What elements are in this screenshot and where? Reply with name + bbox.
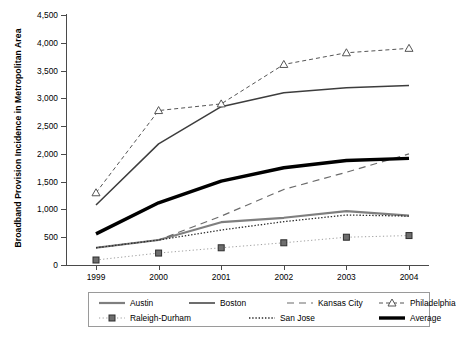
legend-label: Average — [410, 313, 441, 323]
legend-label: Boston — [220, 298, 246, 308]
legend-row: AustinBostonKansas CityPhiladelphia — [89, 295, 429, 310]
data-point — [405, 44, 413, 51]
legend-label: Austin — [130, 298, 153, 308]
series-kansas-city — [96, 154, 409, 248]
legend-item-san-jose[interactable]: San Jose — [249, 310, 315, 325]
legend-swatch-icon — [379, 297, 405, 309]
data-point — [406, 233, 412, 239]
data-point — [281, 240, 287, 246]
legend-item-philadelphia[interactable]: Philadelphia — [379, 295, 456, 310]
legend-swatch-icon — [99, 297, 125, 309]
legend-label: Raleigh-Durham — [130, 313, 191, 323]
chart-container: Broadband Provision Incidence in Metropo… — [0, 0, 456, 340]
data-point — [92, 189, 100, 196]
legend-swatch-icon — [287, 297, 313, 309]
data-point — [218, 245, 224, 251]
legend-item-average[interactable]: Average — [379, 310, 441, 325]
data-point — [217, 100, 225, 107]
legend-label: San Jose — [280, 313, 315, 323]
data-point — [156, 250, 162, 256]
data-point — [280, 60, 288, 67]
legend-swatch-icon — [189, 297, 215, 309]
legend-item-raleigh-durham[interactable]: Raleigh-Durham — [99, 310, 191, 325]
series-raleigh-durham — [93, 233, 412, 263]
legend-swatch-icon — [99, 312, 125, 324]
data-point — [93, 257, 99, 263]
legend-item-boston[interactable]: Boston — [189, 295, 246, 310]
data-point — [343, 234, 349, 240]
legend-label: Philadelphia — [410, 298, 456, 308]
series-boston — [96, 86, 409, 205]
legend-row: Raleigh-DurhamSan JoseAverage — [89, 310, 429, 325]
legend-item-austin[interactable]: Austin — [99, 295, 153, 310]
legend-swatch-icon — [249, 312, 275, 324]
plot-area — [0, 0, 456, 340]
legend-label: Kansas City — [318, 298, 363, 308]
series-austin — [96, 211, 409, 248]
legend-item-kansas-city[interactable]: Kansas City — [287, 295, 363, 310]
series-average — [96, 158, 409, 234]
data-point — [342, 49, 350, 56]
legend-swatch-icon — [379, 312, 405, 324]
chart-legend: AustinBostonKansas CityPhiladelphia Rale… — [88, 292, 430, 327]
